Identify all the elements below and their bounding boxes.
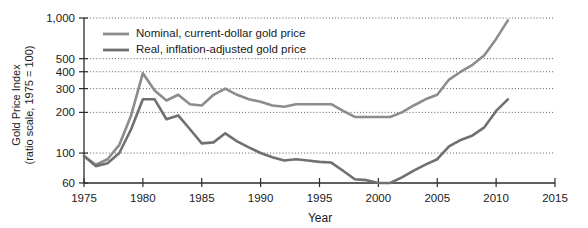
- y-axis-ticks-group: 1,00050040030020010060: [46, 12, 88, 189]
- chart-plot-area: 1,00050040030020010060 19751980198519901…: [0, 0, 588, 228]
- y-tick-label: 400: [56, 66, 75, 78]
- x-axis-title: Year: [308, 211, 332, 225]
- y-tick-label: 100: [56, 147, 75, 159]
- y-tick-label: 1,000: [46, 12, 75, 24]
- x-tick-label: 1980: [130, 192, 156, 204]
- x-tick-label: 1975: [71, 192, 97, 204]
- x-tick-label: 1995: [307, 192, 333, 204]
- x-tick-label: 1985: [189, 192, 215, 204]
- series-line-nominal: [84, 20, 508, 164]
- x-tick-label: 2005: [424, 192, 450, 204]
- x-axis-ticks-group: 197519801985199019952000200520102015: [71, 178, 568, 204]
- x-tick-label: 1990: [248, 192, 274, 204]
- y-tick-label: 500: [56, 53, 75, 65]
- y-axis-title-line1: Gold Price Index: [10, 64, 22, 146]
- y-tick-label: 200: [56, 106, 75, 118]
- y-tick-label: 60: [62, 177, 75, 189]
- y-tick-label: 300: [56, 83, 75, 95]
- legend-label: Nominal, current-dollar gold price: [136, 27, 305, 39]
- chart-legend: Nominal, current-dollar gold priceReal, …: [103, 27, 306, 55]
- y-axis-title-line2: (ratio scale, 1975 = 100): [23, 46, 35, 165]
- legend-label: Real, inflation-adjusted gold price: [136, 43, 306, 55]
- x-tick-label: 2010: [483, 192, 509, 204]
- series-line-real: [84, 99, 508, 183]
- x-tick-label: 2000: [366, 192, 392, 204]
- gold-price-index-chart: 1,00050040030020010060 19751980198519901…: [0, 0, 588, 228]
- y-axis-title: Gold Price Index (ratio scale, 1975 = 10…: [10, 46, 35, 165]
- x-tick-label: 2015: [542, 192, 568, 204]
